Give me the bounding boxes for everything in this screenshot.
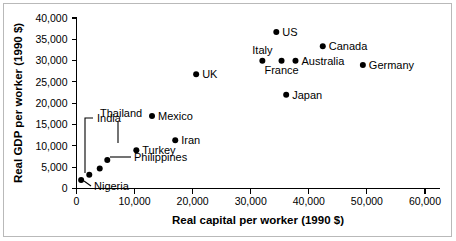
scatter-plot-figure: 05,00010,00015,00020,00025,00030,00035,0… xyxy=(0,0,456,241)
data-point-labels: USCanadaItalyFranceAustraliaGermanyUKJap… xyxy=(94,26,415,192)
data-marker-us xyxy=(273,29,279,35)
x-tick-label: 0 xyxy=(74,195,80,207)
plot-canvas: 05,00010,00015,00020,00025,00030,00035,0… xyxy=(0,0,456,241)
y-axis-title: Real GDP per worker (1990 $) xyxy=(12,23,24,183)
y-tick-label: 0 xyxy=(62,182,68,194)
y-tick-label: 5,000 xyxy=(41,161,67,173)
data-label-iran: Iran xyxy=(181,134,200,146)
data-marker-philippines xyxy=(97,165,103,171)
leader-line-nigeria xyxy=(84,181,91,186)
y-tick-label: 20,000 xyxy=(35,97,67,109)
data-marker-mexico xyxy=(149,113,155,119)
data-label-italy: Italy xyxy=(252,44,273,56)
data-label-japan: Japan xyxy=(292,89,322,101)
x-tick-label: 60,000 xyxy=(409,195,441,207)
data-label-france: France xyxy=(264,64,298,76)
y-tick-label: 25,000 xyxy=(35,76,67,88)
data-marker-germany xyxy=(360,62,366,68)
data-label-philippines: Philippines xyxy=(134,151,188,163)
data-label-mexico: Mexico xyxy=(158,110,193,122)
x-tick-label: 50,000 xyxy=(351,195,383,207)
data-marker-canada xyxy=(320,43,326,49)
y-tick-label: 40,000 xyxy=(35,12,67,24)
data-label-india: India xyxy=(97,112,122,124)
data-marker-thailand xyxy=(104,157,110,163)
data-label-australia: Australia xyxy=(301,55,345,67)
data-label-nigeria: Nigeria xyxy=(94,180,130,192)
x-tick-label: 20,000 xyxy=(177,195,209,207)
data-label-us: US xyxy=(282,26,297,38)
x-axis-tick-labels: 010,00020,00030,00040,00050,00060,000 xyxy=(74,195,442,207)
data-marker-india xyxy=(86,172,92,178)
y-tick-label: 15,000 xyxy=(35,118,67,130)
data-marker-nigeria xyxy=(78,177,84,183)
y-axis-ticks xyxy=(72,18,77,189)
y-axis-tick-labels: 05,00010,00015,00020,00025,00030,00035,0… xyxy=(35,12,67,195)
y-tick-label: 10,000 xyxy=(35,140,67,152)
data-marker-uk xyxy=(193,71,199,77)
x-axis-title: Real capital per worker (1990 $) xyxy=(172,214,344,226)
y-tick-label: 35,000 xyxy=(35,33,67,45)
data-label-germany: Germany xyxy=(369,59,415,71)
data-marker-japan xyxy=(283,92,289,98)
data-label-canada: Canada xyxy=(329,40,368,52)
x-tick-label: 30,000 xyxy=(235,195,267,207)
x-tick-label: 10,000 xyxy=(119,195,151,207)
leader-line-india xyxy=(85,118,93,173)
data-label-uk: UK xyxy=(202,68,218,80)
data-marker-iran xyxy=(172,137,178,143)
x-tick-label: 40,000 xyxy=(293,195,325,207)
y-tick-label: 30,000 xyxy=(35,54,67,66)
